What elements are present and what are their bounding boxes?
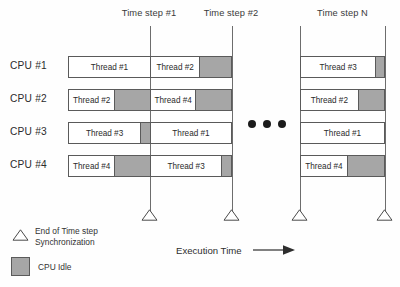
execution-time-label: Execution Time xyxy=(176,245,242,256)
cpu-label-1: CPU #1 xyxy=(10,60,47,71)
segment-thread: Thread #4 xyxy=(301,156,347,176)
legend-idle-swatch xyxy=(11,257,30,276)
segment-idle xyxy=(358,90,384,110)
ellipsis-dot xyxy=(248,120,256,128)
segment-thread: Thread #2 xyxy=(69,90,114,110)
gantt-bar-cpu2-left: Thread #2 Thread #4 xyxy=(68,89,232,111)
sync-rule-1 xyxy=(150,26,151,213)
segment-thread: Thread #1 xyxy=(301,123,384,143)
ellipsis-dot xyxy=(278,120,286,128)
time-step-caption-2: Time step #2 xyxy=(190,8,272,18)
segment-thread: Thread #1 xyxy=(69,57,150,77)
segment-thread: Thread #4 xyxy=(150,90,195,110)
segment-thread: Thread #2 xyxy=(150,57,199,77)
time-step-caption-n: Time step N xyxy=(300,8,385,18)
segment-idle xyxy=(375,57,384,77)
gantt-bar-cpu1-left: Thread #1 Thread #2 xyxy=(68,56,232,78)
segment-thread: Thread #4 xyxy=(69,156,114,176)
segment-idle xyxy=(195,90,231,110)
segment-idle xyxy=(140,123,150,143)
sync-triangle-icon-2 xyxy=(223,207,240,219)
sync-triangle-icon-1 xyxy=(141,207,158,219)
segment-idle xyxy=(199,57,231,77)
sync-rule-4 xyxy=(385,26,386,213)
segment-thread: Thread #2 xyxy=(301,90,358,110)
sync-triangle-icon-3 xyxy=(291,207,308,219)
scheduling-timeline-diagram: Time step #1 Time step #2 Time step N CP… xyxy=(0,0,400,287)
gantt-bar-cpu4-right: Thread #4 xyxy=(300,155,385,177)
segment-idle xyxy=(114,90,150,110)
segment-idle xyxy=(221,156,231,176)
gantt-bar-cpu4-left: Thread #4 Thread #3 xyxy=(68,155,232,177)
gantt-bar-cpu3-right: Thread #1 xyxy=(300,122,385,144)
cpu-label-2: CPU #2 xyxy=(10,93,47,104)
gantt-bar-cpu1-right: Thread #3 xyxy=(300,56,385,78)
legend-sync-label: End of Time step Synchronization xyxy=(35,226,155,247)
sync-triangle-icon-4 xyxy=(376,207,393,219)
legend-sync-triangle-icon xyxy=(12,227,29,239)
legend-idle-label: CPU Idle xyxy=(38,262,72,273)
continuation-ellipsis-icon xyxy=(248,120,286,128)
segment-thread: Thread #1 xyxy=(150,123,231,143)
sync-rule-3 xyxy=(300,26,301,213)
arrow-right-icon xyxy=(252,243,296,261)
segment-thread: Thread #3 xyxy=(69,123,140,143)
sync-rule-2 xyxy=(232,26,233,213)
cpu-label-4: CPU #4 xyxy=(10,159,47,170)
segment-thread: Thread #3 xyxy=(150,156,221,176)
segment-idle xyxy=(347,156,384,176)
time-step-caption-1: Time step #1 xyxy=(108,8,190,18)
segment-idle xyxy=(114,156,150,176)
segment-thread: Thread #3 xyxy=(301,57,375,77)
gantt-bar-cpu3-left: Thread #3 Thread #1 xyxy=(68,122,232,144)
gantt-bar-cpu2-right: Thread #2 xyxy=(300,89,385,111)
ellipsis-dot xyxy=(263,120,271,128)
cpu-label-3: CPU #3 xyxy=(10,126,47,137)
